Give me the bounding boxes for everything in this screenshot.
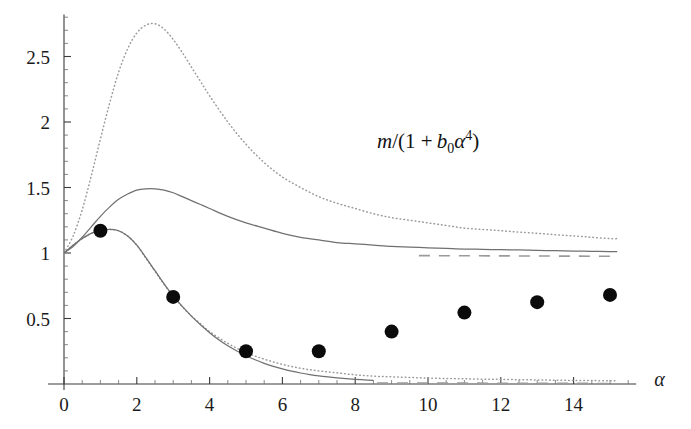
y-tick-label: 2 <box>41 112 51 133</box>
scatter-point <box>457 306 471 320</box>
scatter-point <box>603 288 617 302</box>
y-tick-label: 1 <box>41 243 51 264</box>
annot-alpha-exponent: 4 <box>465 128 472 143</box>
x-tick-label: 4 <box>205 394 215 415</box>
x-tick-label: 2 <box>132 394 142 415</box>
y-tick-label: 2.5 <box>26 47 50 68</box>
x-axis-label: α <box>654 368 665 390</box>
formula-annotation: m/(1 +b0α4) <box>377 128 479 156</box>
scatter-point <box>239 344 253 358</box>
annot-close: ) <box>472 129 479 153</box>
x-tick-label: 14 <box>564 394 584 415</box>
plot-svg: 02468101214 0.511.522.5 α m/(1 +b0α4) <box>0 0 691 429</box>
annot-b-subscript: 0 <box>447 141 454 156</box>
series-upper-dotted <box>64 23 617 253</box>
y-axis-ticks <box>64 17 71 371</box>
y-tick-label: 0.5 <box>26 309 50 330</box>
scatter-point <box>530 295 544 309</box>
series-asymptote-dashed <box>419 256 617 257</box>
x-tick-label: 12 <box>491 394 510 415</box>
y-tick-label: 1.5 <box>26 178 50 199</box>
series-middle-solid <box>64 189 617 253</box>
annot-b: b <box>437 129 448 153</box>
series-lower-solid <box>64 229 373 380</box>
y-axis-tick-labels: 0.511.522.5 <box>26 47 50 330</box>
x-axis-tick-labels: 02468101214 <box>59 394 583 415</box>
scatter-point <box>166 290 180 304</box>
scatter-point <box>93 224 107 238</box>
annot-open: /(1 + <box>392 129 432 153</box>
figure-panel: 02468101214 0.511.522.5 α m/(1 +b0α4) <box>0 0 691 429</box>
scatter-point <box>312 344 326 358</box>
x-tick-label: 8 <box>350 394 360 415</box>
scatter-point <box>385 325 399 339</box>
x-tick-label: 0 <box>59 394 69 415</box>
annot-m: m <box>377 129 392 153</box>
data-series-group <box>64 23 617 383</box>
series-baseline-dashed <box>377 383 617 384</box>
x-tick-label: 6 <box>278 394 288 415</box>
x-tick-label: 10 <box>419 394 438 415</box>
